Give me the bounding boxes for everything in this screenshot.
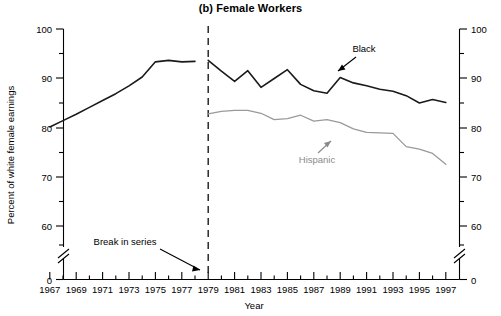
- x-tick-1973: 1973: [118, 284, 139, 295]
- data-series-layer: [50, 60, 446, 164]
- x-tick-1997: 1997: [435, 284, 456, 295]
- chart-plot-area: 100 90 80 70 60 0 Percent of white femal…: [0, 0, 501, 316]
- x-tick-1983: 1983: [250, 284, 271, 295]
- right-axis: [454, 29, 467, 280]
- series-line-black-post-break: [208, 60, 446, 103]
- x-tick-1977: 1977: [171, 284, 192, 295]
- y-tick-80: 80: [41, 123, 52, 134]
- x-tick-1993: 1993: [382, 284, 403, 295]
- hispanic-label: Hispanic: [299, 154, 336, 165]
- break-annotation: Break in series: [94, 236, 200, 272]
- left-axis: [56, 29, 69, 280]
- x-tick-1989: 1989: [330, 284, 351, 295]
- y-axis-title: Percent of white female earnings: [5, 86, 16, 225]
- y-tick-90: 90: [41, 73, 52, 84]
- y2-tick-100: 100: [471, 24, 487, 35]
- y2-tick-70: 70: [471, 172, 482, 183]
- x-tick-1979: 1979: [198, 284, 219, 295]
- x-axis: [50, 272, 460, 280]
- black-label: Black: [352, 43, 375, 54]
- x-tick-1971: 1971: [92, 284, 113, 295]
- y-tick-100: 100: [36, 24, 52, 35]
- x-tick-1981: 1981: [224, 284, 245, 295]
- y2-tick-60: 60: [471, 221, 482, 232]
- chart-figure: (b) Female Workers 100 90 80 70 60 0: [0, 0, 501, 316]
- black-annotation: Black: [338, 43, 376, 71]
- y2-tick-90: 90: [471, 73, 482, 84]
- series-line-black-pre-break: [50, 60, 195, 127]
- x-tick-1995: 1995: [409, 284, 430, 295]
- hispanic-annotation: Hispanic: [299, 141, 336, 165]
- break-label: Break in series: [94, 236, 157, 247]
- y-tick-60: 60: [41, 221, 52, 232]
- x-tick-1975: 1975: [145, 284, 166, 295]
- x-tick-1969: 1969: [66, 284, 87, 295]
- x-tick-1987: 1987: [303, 284, 324, 295]
- y2-tick-80: 80: [471, 123, 482, 134]
- x-tick-1967: 1967: [39, 284, 60, 295]
- x-axis-title: Year: [244, 300, 263, 311]
- y-tick-70: 70: [41, 172, 52, 183]
- y2-tick-0: 0: [471, 275, 476, 286]
- x-tick-1985: 1985: [277, 284, 298, 295]
- x-tick-1991: 1991: [356, 284, 377, 295]
